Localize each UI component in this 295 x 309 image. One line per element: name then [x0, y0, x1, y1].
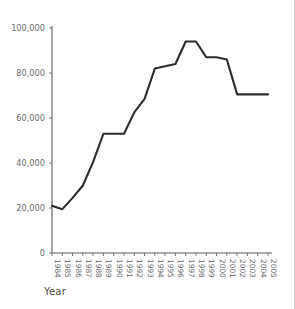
- x-tick-label: 2002: [238, 259, 247, 278]
- x-tick-label: 2004: [259, 259, 268, 278]
- line-chart: 020,00040,00060,00080,000100,000 1984198…: [0, 0, 295, 309]
- y-tick-label: 60,000: [16, 113, 45, 123]
- x-tick-label: 1993: [146, 259, 155, 278]
- x-tick-label: 1988: [94, 259, 103, 278]
- y-tick-label: 100,000: [11, 23, 45, 33]
- x-tick-label: 1985: [63, 259, 72, 278]
- x-tick-label: 2000: [218, 259, 227, 278]
- y-tick-label: 0: [40, 248, 45, 258]
- data-series-line: [52, 42, 268, 210]
- x-tick-label: 2005: [269, 259, 278, 278]
- x-tick-label: 1998: [197, 259, 206, 278]
- x-tick-label: 1987: [84, 259, 93, 278]
- x-tick-label: 1999: [207, 259, 216, 278]
- x-tick-label: 2003: [248, 259, 257, 278]
- x-axis-tick-labels: 1984198519861987198819891990199119921993…: [53, 259, 278, 278]
- y-tick-label: 40,000: [16, 158, 45, 168]
- x-tick-label: 1992: [135, 259, 144, 278]
- x-tick-label: 1997: [187, 259, 196, 278]
- x-tick-label: 2001: [228, 259, 237, 278]
- x-tick-label: 1995: [166, 259, 175, 278]
- chart-screenshot: 020,00040,00060,00080,000100,000 1984198…: [0, 0, 295, 309]
- chart-plot-svg: 020,00040,00060,00080,000100,000 1984198…: [0, 0, 295, 309]
- x-tick-label: 1984: [53, 259, 62, 278]
- x-tick-label: 1986: [74, 259, 83, 278]
- x-tick-label: 1991: [125, 259, 134, 278]
- y-axis-tick-labels: 020,00040,00060,00080,000100,000: [11, 23, 45, 258]
- x-tick-label: 1989: [104, 259, 113, 278]
- x-axis-title: Year: [44, 286, 66, 297]
- y-tick-label: 80,000: [16, 68, 45, 78]
- x-tick-label: 1990: [115, 259, 124, 278]
- x-tick-label: 1996: [176, 259, 185, 278]
- y-tick-label: 20,000: [16, 203, 45, 213]
- x-tick-label: 1994: [156, 259, 165, 278]
